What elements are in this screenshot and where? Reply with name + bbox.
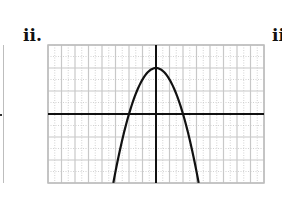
parabola-graph — [0, 0, 282, 198]
